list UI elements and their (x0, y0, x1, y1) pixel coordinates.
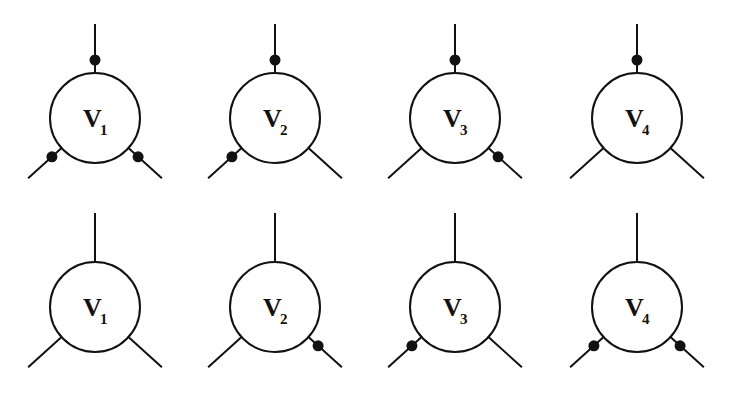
leg-bottom-left (208, 148, 241, 178)
dot-marker-bottom-right (675, 340, 686, 351)
vertex-subscript: 3 (460, 122, 468, 138)
leg-bottom-right (670, 337, 703, 367)
vertex-v2-row1: V2 (208, 24, 342, 178)
leg-bottom-right (308, 337, 341, 367)
vertex-subscript: 2 (280, 122, 288, 138)
dot-marker-bottom-left (588, 340, 599, 351)
leg-bottom-right (308, 148, 341, 178)
dot-marker-bottom-left (406, 340, 417, 351)
dot-marker-bottom-left (46, 151, 57, 162)
leg-bottom-right (488, 337, 521, 367)
vertex-subscript: 3 (460, 311, 468, 327)
vertex-subscript: 1 (100, 311, 108, 327)
vertex-v3-row1: V3 (388, 24, 522, 178)
vertex-subscript: 4 (642, 122, 650, 138)
leg-bottom-left (28, 337, 61, 367)
vertex-v1-row2: V1 (28, 213, 162, 367)
vertex-v1-row1: V1 (28, 24, 162, 178)
dot-marker-bottom-right (313, 340, 324, 351)
dot-marker-top (270, 55, 281, 66)
dot-marker-bottom-right (133, 151, 144, 162)
vertex-subscript: 4 (642, 311, 650, 327)
leg-bottom-right (128, 337, 161, 367)
leg-bottom-right (128, 148, 161, 178)
leg-bottom-left (28, 148, 61, 178)
dot-marker-bottom-left (226, 151, 237, 162)
leg-bottom-left (570, 337, 603, 367)
dot-marker-top (632, 55, 643, 66)
leg-bottom-left (570, 148, 603, 178)
leg-bottom-left (388, 337, 421, 367)
leg-bottom-right (670, 148, 703, 178)
vertex-v4-row1: V4 (570, 24, 704, 178)
vertex-v2-row2: V2 (208, 213, 342, 367)
leg-bottom-left (208, 337, 241, 367)
leg-bottom-right (488, 148, 521, 178)
vertex-subscript: 2 (280, 311, 288, 327)
dot-marker-top (90, 55, 101, 66)
dot-marker-bottom-right (493, 151, 504, 162)
vertex-v4-row2: V4 (570, 213, 704, 367)
vertex-subscript: 1 (100, 122, 108, 138)
dot-marker-top (450, 55, 461, 66)
vertex-diagram-canvas: V1V2V3V4V1V2V3V4 (0, 0, 735, 399)
vertex-v3-row2: V3 (388, 213, 522, 367)
leg-bottom-left (388, 148, 421, 178)
